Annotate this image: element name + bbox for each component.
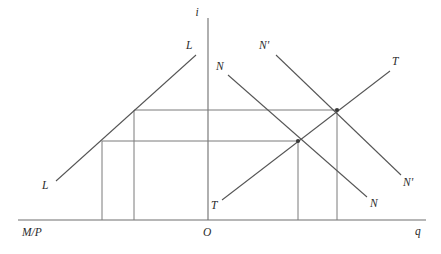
figure-canvas: i q O M/P L L N N N' N' T T [0, 0, 441, 254]
t-curve-label-start: T [211, 199, 219, 211]
x-axis-label: q [415, 225, 421, 238]
n-prime-curve-label-start: N' [258, 39, 270, 51]
l-curve-label-end: L [185, 39, 192, 51]
liquidity-preference-line [56, 55, 196, 181]
l-curve-label-start: L [41, 179, 48, 191]
economics-diagram: i q O M/P L L N N N' N' T T [0, 0, 441, 254]
transactions-demand-line [222, 71, 390, 200]
y-axis-label: i [195, 6, 198, 18]
n-curve-label-end: N [369, 197, 379, 209]
money-supply-label: M/P [21, 226, 42, 238]
t-curve-label-end: T [392, 55, 400, 67]
equilibrium-n-t-node [296, 139, 300, 143]
equilibrium-nprime-t-node [335, 108, 339, 112]
origin-label: O [203, 226, 212, 238]
n-prime-curve-label-end: N' [402, 176, 414, 188]
n-prime-schedule-line [276, 55, 401, 175]
n-curve-label-start: N [215, 60, 225, 72]
